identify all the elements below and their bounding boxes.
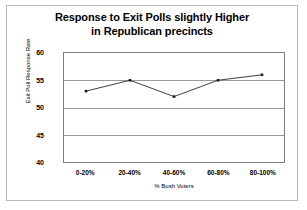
chart-title-line-1: Response to Exit Polls slightly Higher [55, 11, 249, 23]
data-point-4 [261, 74, 264, 77]
x-tick-label-0: 0-20% [63, 169, 107, 176]
y-tick-label-50: 50 [22, 104, 44, 111]
line-series [64, 53, 284, 162]
x-axis-title: % Bush Voters [63, 183, 285, 189]
x-tick-label-1: 20-40% [107, 169, 151, 176]
y-tick-label-45: 45 [22, 132, 44, 139]
x-axis-tick-labels: 0-20% 20-40% 40-60% 60-80% 80-100% [63, 169, 285, 176]
y-tick-label-60: 60 [22, 49, 44, 56]
chart-frame: Response to Exit Polls slightly Higher i… [6, 5, 298, 201]
plot-area [63, 52, 285, 163]
y-tick-label-40: 40 [22, 159, 44, 166]
series-line [86, 75, 262, 97]
data-point-1 [129, 79, 132, 82]
data-point-3 [217, 79, 220, 82]
data-point-0 [85, 90, 88, 93]
x-tick-label-4: 80-100% [241, 169, 285, 176]
x-tick-label-2: 40-60% [152, 169, 196, 176]
data-point-2 [173, 95, 176, 98]
series-markers [85, 74, 264, 98]
chart-title: Response to Exit Polls slightly Higher i… [7, 11, 297, 38]
y-tick-label-55: 55 [22, 77, 44, 84]
chart-title-line-2: in Republican precincts [7, 25, 297, 39]
x-tick-label-3: 60-80% [196, 169, 240, 176]
